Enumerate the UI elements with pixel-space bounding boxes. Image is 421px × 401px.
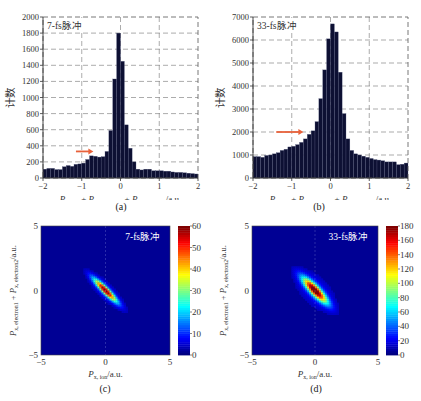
y-tick-label: 0: [34, 286, 39, 296]
y-tick-label: 400: [26, 141, 39, 151]
y-tick-label: 1800: [22, 28, 39, 38]
colorbar-tick-label: 40: [192, 264, 202, 274]
x-tick-label: 0: [328, 181, 332, 191]
colorbar-tick-label: 20: [192, 307, 202, 317]
colorbar-tick-label: 140: [400, 250, 414, 260]
heatmap-d: −505−50533-fs脉冲020406080100120140160180P…: [210, 215, 421, 401]
y-tick-label: 1000: [232, 150, 249, 160]
y-axis-label: Px, electron1 + Px, electron2/a.u.: [8, 245, 19, 337]
pulse-annotation: 33-fs脉冲: [257, 20, 297, 31]
y-tick-label: 4000: [232, 81, 249, 91]
x-tick-label: 0: [103, 357, 108, 367]
caption-b: (b): [299, 201, 339, 212]
caption-c: (c): [85, 383, 125, 394]
caption-d: (d): [296, 383, 336, 394]
colorbar-tick-label: 80: [400, 293, 410, 303]
y-tick-label: 0: [245, 286, 250, 296]
panel-d: −505−50533-fs脉冲020406080100120140160180P…: [210, 215, 421, 401]
y-axis-label: 计数: [214, 87, 226, 108]
y-tick-label: 7000: [232, 12, 249, 22]
histogram-a: 0200400600800100012001400160018002000−2−…: [0, 0, 210, 200]
y-axis-label: 计数: [4, 87, 16, 108]
colorbar-tick-label: 0: [192, 350, 197, 360]
y-axis-label: Px, electron1 + Px, electron2/a.u.: [218, 245, 229, 337]
x-tick-label: −1: [77, 181, 86, 191]
y-tick-label: −5: [239, 350, 249, 360]
y-tick-label: 200: [26, 157, 39, 167]
y-tick-label: 5000: [232, 58, 249, 68]
y-tick-label: 1200: [22, 76, 39, 86]
colorbar-tick-label: 160: [400, 235, 414, 245]
colorbar-tick-label: 60: [400, 307, 410, 317]
panel-c: −505−5057-fs脉冲0102030405060Px, electron1…: [0, 215, 210, 401]
x-tick-label: 1: [157, 181, 161, 191]
colorbar-tick-label: 0: [400, 350, 405, 360]
x-axis-label: Px, ion + Px, electron1 + Px, electron2/…: [59, 194, 181, 200]
y-tick-label: 1000: [22, 93, 39, 103]
colorbar-tick-label: 20: [400, 336, 410, 346]
y-tick-label: 600: [26, 125, 39, 135]
colorbar-tick-label: 30: [192, 286, 202, 296]
x-tick-label: 5: [168, 357, 173, 367]
heatmap-c: −505−5057-fs脉冲0102030405060Px, electron1…: [0, 215, 210, 401]
y-tick-label: 800: [26, 109, 39, 119]
y-tick-label: −5: [28, 350, 38, 360]
colorbar-tick-label: 100: [400, 278, 414, 288]
x-tick-label: 5: [376, 357, 381, 367]
y-tick-label: 2000: [232, 127, 249, 137]
x-axis-label: Px, ion/a.u.: [87, 369, 123, 380]
y-tick-label: 6000: [232, 35, 249, 45]
x-tick-label: −2: [248, 181, 257, 191]
x-axis-label: Px, ion + Px, electron1 + Px, electron2/…: [269, 194, 391, 200]
pulse-annotation: 7-fs脉冲: [125, 231, 160, 242]
colorbar-tick-label: 180: [400, 221, 414, 231]
caption-a: (a): [101, 201, 141, 212]
x-tick-label: 1: [367, 181, 371, 191]
x-tick-label: 0: [118, 181, 122, 191]
y-tick-label: 1600: [22, 44, 39, 54]
x-tick-label: 0: [313, 357, 318, 367]
colorbar: [386, 226, 398, 355]
colorbar-tick-label: 10: [192, 329, 202, 339]
panel-a: 0200400600800100012001400160018002000−2−…: [0, 0, 210, 200]
x-tick-label: 2: [406, 181, 410, 191]
colorbar-tick-label: 120: [400, 264, 414, 274]
pulse-annotation: 7-fs脉冲: [47, 20, 82, 31]
y-tick-label: 5: [245, 221, 250, 231]
colorbar-tick-label: 60: [192, 221, 202, 231]
pulse-annotation: 33-fs脉冲: [328, 231, 368, 242]
x-tick-label: −2: [38, 181, 47, 191]
x-tick-label: 2: [196, 181, 200, 191]
panel-b: 01000200030004000500060007000−2−101233-f…: [210, 0, 421, 200]
y-tick-label: 1400: [22, 60, 39, 70]
histogram-b: 01000200030004000500060007000−2−101233-f…: [210, 0, 421, 200]
y-tick-label: 5: [34, 221, 39, 231]
x-axis-label: Px, ion/a.u.: [297, 369, 333, 380]
x-tick-label: −1: [287, 181, 296, 191]
colorbar-tick-label: 50: [192, 243, 202, 253]
y-tick-label: 3000: [232, 104, 249, 114]
colorbar-tick-label: 40: [400, 321, 410, 331]
y-tick-label: 2000: [22, 12, 39, 22]
colorbar: [178, 226, 190, 355]
